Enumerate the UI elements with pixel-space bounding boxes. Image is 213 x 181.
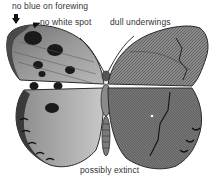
left-hindwing [16,88,104,167]
arrow-down-icon [12,14,20,24]
left-forewing [7,25,104,90]
butterfly-illustration [0,0,213,181]
label-no-blue-on-forewing: no blue on forewing [12,1,88,11]
right-forewing [108,26,208,86]
label-no-white-spot: no white spot [40,17,91,27]
label-possibly-extinct: possibly extinct [80,165,139,175]
label-dull-underwings: dull underwings [110,17,171,27]
right-hindwing [108,88,202,169]
